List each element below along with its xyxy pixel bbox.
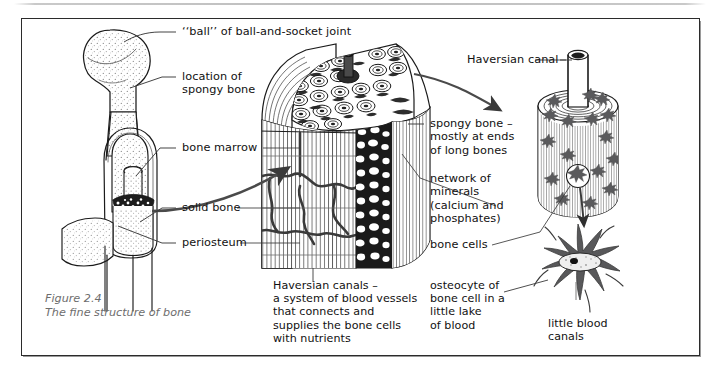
figure-page: ‘‘ball’’ of ball-and-socket joint locati…	[0, 0, 719, 373]
osteocyte-detail-illustration	[534, 224, 623, 312]
figure-caption: Figure 2.4 The fine structure of bone	[45, 292, 275, 320]
label-solid-bone: solid bone	[182, 201, 241, 214]
label-little-blood-canals: little blood canals	[548, 317, 608, 343]
label-periosteum: periosteum	[182, 236, 247, 249]
label-spongy-location: location of spongy bone	[182, 70, 255, 97]
label-haversian-canal: Haversian canal	[467, 53, 559, 66]
label-osteocyte-note: osteocyte of bone cell in a little lake …	[430, 279, 505, 332]
femur-illustration	[62, 30, 157, 311]
figure-number: Figure 2.4	[45, 292, 275, 306]
label-bone-cells: bone cells	[430, 238, 488, 251]
label-spongy-bone-ends: spongy bone – mostly at ends of long bon…	[430, 117, 514, 157]
label-network-minerals: network of minerals (calcium and phospha…	[430, 172, 504, 226]
label-ball-joint: ‘‘ball’’ of ball-and-socket joint	[182, 25, 351, 38]
bone-block-illustration	[258, 44, 434, 272]
haversian-cylinder-illustration	[534, 50, 624, 226]
label-bone-marrow: bone marrow	[182, 141, 257, 154]
label-haversian-canals-note: Haversian canals – a system of blood ves…	[273, 279, 417, 345]
figure-title: The fine structure of bone	[45, 306, 275, 320]
